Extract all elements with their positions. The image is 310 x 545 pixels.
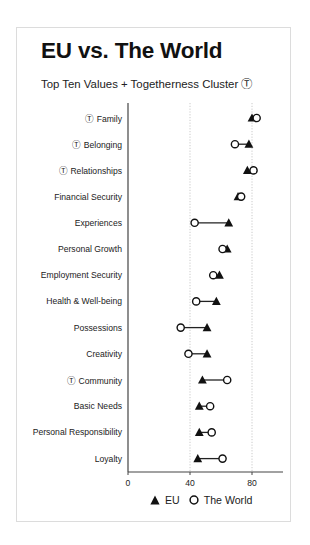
x-tick-label: 0 — [126, 478, 131, 488]
legend: EU The World — [150, 494, 261, 506]
world-circle-marker — [177, 324, 184, 331]
category-label: Experiences — [75, 218, 122, 228]
category-label: Basic Needs — [74, 401, 122, 411]
legend-item-eu: EU — [150, 494, 180, 506]
world-circle-marker — [224, 376, 231, 383]
legend-label-world: The World — [204, 494, 253, 506]
category-label: Creativity — [86, 349, 122, 359]
x-tick-label: 80 — [247, 478, 257, 488]
legend-label-eu: EU — [165, 494, 180, 506]
world-circle-marker — [185, 350, 192, 357]
world-circle-marker — [193, 298, 200, 305]
world-circle-marker — [207, 403, 214, 410]
dumbbell-chart: 04080Ⓣ FamilyⓉ BelongingⓉ RelationshipsF… — [0, 0, 310, 545]
category-label: Ⓣ Community — [67, 374, 122, 386]
category-label: Financial Security — [54, 192, 122, 202]
category-label: Health & Well-being — [46, 296, 122, 306]
world-circle-marker — [250, 167, 257, 174]
world-circle-marker — [208, 429, 215, 436]
category-label: Ⓣ Belonging — [72, 138, 122, 150]
world-circle-marker — [219, 245, 226, 252]
category-label: Ⓣ Family — [85, 112, 122, 124]
category-label: Possessions — [74, 323, 122, 333]
category-label: Personal Growth — [58, 244, 122, 254]
world-circle-marker — [191, 219, 198, 226]
legend-item-world: The World — [189, 494, 253, 506]
circle-icon — [189, 495, 199, 505]
category-label: Personal Responsibility — [33, 427, 122, 437]
world-circle-marker — [231, 141, 238, 148]
world-circle-marker — [210, 272, 217, 279]
x-tick-label: 40 — [185, 478, 195, 488]
world-circle-marker — [219, 455, 226, 462]
category-label: Loyalty — [95, 454, 122, 464]
category-label: Ⓣ Relationships — [59, 164, 122, 176]
triangle-icon — [150, 495, 160, 505]
category-label: Employment Security — [41, 270, 122, 280]
world-circle-marker — [238, 193, 245, 200]
world-circle-marker — [253, 114, 260, 121]
